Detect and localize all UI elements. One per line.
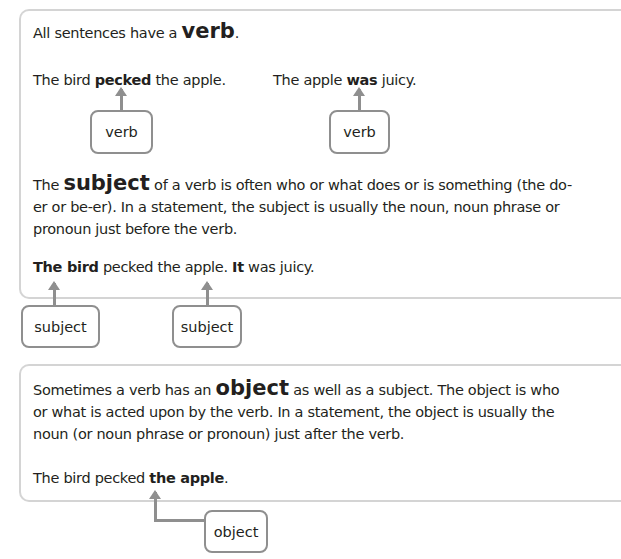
text: . <box>224 470 228 486</box>
text: The <box>33 177 63 193</box>
highlight-subject: It <box>232 259 244 275</box>
text: was juicy. <box>244 259 315 275</box>
verb-example-2: The apple was juicy. <box>273 69 416 91</box>
intro-text: All sentences have a <box>33 25 182 41</box>
highlight-object: the apple <box>149 470 224 486</box>
connector-line <box>154 519 206 522</box>
object-example: The bird pecked the apple. <box>33 467 228 489</box>
verb-intro: All sentences have a verb. <box>33 20 239 44</box>
text: The bird pecked <box>33 470 149 486</box>
arrow-up-icon <box>358 89 361 111</box>
key-term-verb: verb <box>182 19 235 43</box>
label-verb-1: verb <box>90 110 153 154</box>
arrow-up-icon <box>120 89 123 111</box>
label-object: object <box>204 510 268 553</box>
verb-example-1: The bird pecked the apple. <box>33 69 226 91</box>
arrow-up-icon <box>206 283 209 306</box>
label-subject-1: subject <box>21 305 100 348</box>
text: The apple <box>273 72 346 88</box>
text: The bird <box>33 72 95 88</box>
highlight-subject: The bird <box>33 259 99 275</box>
intro-period: . <box>235 25 239 41</box>
subject-example: The bird pecked the apple. It was juicy. <box>33 256 314 278</box>
subject-paragraph: The subject of a verb is often who or wh… <box>33 172 573 240</box>
key-term-object: object <box>216 376 289 400</box>
text: juicy. <box>377 72 416 88</box>
text: pecked the apple. <box>99 259 233 275</box>
object-paragraph: Sometimes a verb has an object as well a… <box>33 377 573 445</box>
highlight-verb: pecked <box>95 72 151 88</box>
label-verb-2: verb <box>329 110 390 154</box>
text: Sometimes a verb has an <box>33 382 216 398</box>
highlight-verb: was <box>346 72 377 88</box>
key-term-subject: subject <box>63 171 149 195</box>
arrow-up-icon <box>154 492 157 522</box>
arrow-up-icon <box>53 283 56 306</box>
text: the apple. <box>151 72 226 88</box>
label-subject-2: subject <box>172 305 242 348</box>
